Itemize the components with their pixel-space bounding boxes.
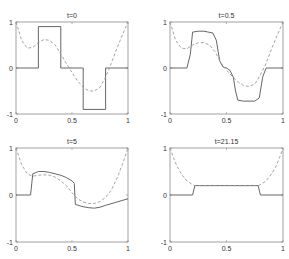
x-tick-label: 1 (281, 117, 285, 124)
y-tick-label: 0 (163, 192, 167, 199)
solid-solution-curve (16, 172, 128, 209)
y-tick-label: 0 (163, 65, 167, 72)
y-tick-label: -1 (7, 239, 13, 246)
y-tick-label: 1 (9, 145, 13, 152)
solid-solution-curve (170, 186, 283, 195)
x-tick-label: 0.5 (67, 117, 77, 124)
x-tick-label: 0.5 (67, 245, 77, 252)
solid-solution-curve (16, 27, 128, 110)
y-tick-label: -1 (161, 111, 167, 118)
subplot-2: t=0.5-10100.51 (161, 12, 285, 124)
y-tick-label: 0 (9, 192, 13, 199)
dashed-reference-curve (170, 22, 283, 86)
x-tick-label: 0 (14, 245, 18, 252)
x-tick-label: 0.5 (222, 117, 232, 124)
x-tick-label: 0.5 (222, 245, 232, 252)
y-tick-label: 1 (163, 19, 167, 26)
subplot-title: t=5 (67, 138, 77, 145)
subplot-title: t=0.5 (219, 12, 235, 19)
solid-solution-curve (170, 31, 283, 101)
x-tick-label: 0 (168, 245, 172, 252)
subplot-3: t=5-10100.51 (7, 138, 130, 252)
x-tick-label: 1 (126, 245, 130, 252)
x-tick-label: 0 (168, 117, 172, 124)
y-tick-label: 0 (9, 65, 13, 72)
axes-box (16, 148, 128, 242)
subplot-1: t=0-10100.51 (7, 12, 130, 124)
x-tick-label: 1 (126, 117, 130, 124)
y-tick-label: 1 (9, 19, 13, 26)
subplot-title: t=21.15 (215, 138, 239, 145)
y-tick-label: -1 (7, 111, 13, 118)
x-tick-label: 1 (281, 245, 285, 252)
figure-canvas: t=0-10100.51t=0.5-10100.51t=5-10100.51t=… (0, 0, 289, 259)
x-tick-label: 0 (14, 117, 18, 124)
dashed-reference-curve (16, 22, 128, 91)
dashed-reference-curve (170, 148, 283, 186)
y-tick-label: -1 (161, 239, 167, 246)
subplot-4: t=21.15-10100.51 (161, 138, 285, 252)
subplot-title: t=0 (67, 12, 77, 19)
y-tick-label: 1 (163, 145, 167, 152)
